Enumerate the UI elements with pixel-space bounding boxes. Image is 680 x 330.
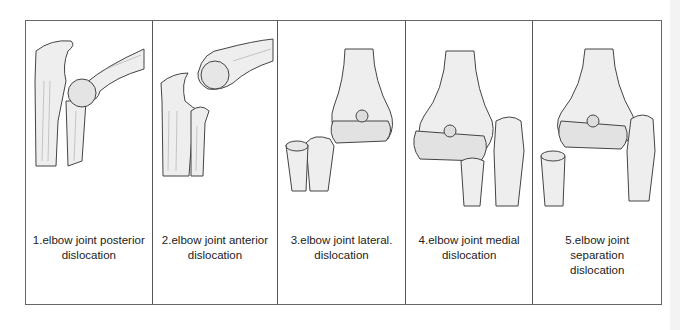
page-edge-strip (670, 0, 680, 330)
caption-line: dislocation (157, 248, 274, 263)
caption-line: dislocation (282, 248, 401, 263)
caption-1: 1.elbow joint posterior dislocation (26, 233, 152, 263)
panel-anterior-dislocation: 2.elbow joint anterior dislocation (153, 21, 279, 304)
caption-3: 3.elbow joint lateral. dislocation (278, 233, 405, 263)
elbow-dislocation-figure: 1.elbow joint posterior dislocation 2.el… (25, 20, 662, 305)
lateral-dislocation-illustration (278, 21, 406, 221)
caption-line: 4.elbow joint medial (410, 233, 529, 248)
caption-line: 1.elbow joint posterior (30, 233, 148, 248)
caption-line: 5.elbow joint separation (537, 233, 657, 263)
medial-dislocation-illustration (406, 21, 534, 221)
caption-line: 2.elbow joint anterior (157, 233, 274, 248)
caption-5: 5.elbow joint separation dislocation (533, 233, 661, 278)
panel-posterior-dislocation: 1.elbow joint posterior dislocation (26, 21, 153, 304)
panel-medial-dislocation: 4.elbow joint medial dislocation (406, 21, 534, 304)
caption-line: dislocation (30, 248, 148, 263)
panel-separation-dislocation: 5.elbow joint separation dislocation (533, 21, 661, 304)
anterior-dislocation-illustration (153, 21, 279, 221)
caption-line: 3.elbow joint lateral. (282, 233, 401, 248)
caption-line: dislocation (537, 263, 657, 278)
caption-line: dislocation (410, 248, 529, 263)
separation-dislocation-illustration (533, 21, 661, 221)
caption-4: 4.elbow joint medial dislocation (406, 233, 533, 263)
posterior-dislocation-illustration (26, 21, 153, 221)
caption-2: 2.elbow joint anterior dislocation (153, 233, 278, 263)
panel-lateral-dislocation: 3.elbow joint lateral. dislocation (278, 21, 406, 304)
